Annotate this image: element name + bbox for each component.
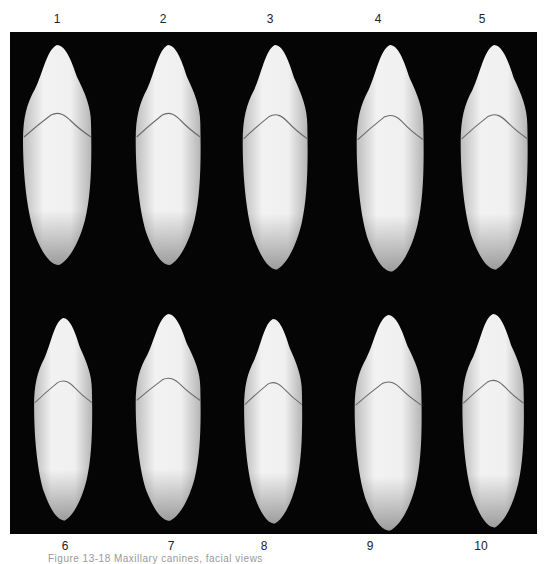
tooth-label-8: 8 bbox=[249, 539, 279, 553]
tooth-label-5: 5 bbox=[467, 12, 497, 26]
tooth-label-2: 2 bbox=[148, 12, 178, 26]
tooth-label-1: 1 bbox=[42, 12, 72, 26]
tooth-label-10: 10 bbox=[466, 539, 496, 553]
tooth-4 bbox=[357, 45, 424, 272]
tooth-label-6: 6 bbox=[50, 539, 80, 553]
tooth-1 bbox=[23, 45, 91, 265]
tooth-7 bbox=[136, 314, 201, 521]
tooth-label-4: 4 bbox=[363, 12, 393, 26]
tooth-9 bbox=[355, 315, 422, 531]
tooth-10 bbox=[462, 314, 524, 527]
tooth-3 bbox=[243, 45, 308, 269]
tooth-5 bbox=[461, 45, 528, 269]
tooth-label-3: 3 bbox=[255, 12, 285, 26]
photo-panel bbox=[10, 32, 537, 534]
tooth-label-9: 9 bbox=[355, 539, 385, 553]
teeth-photo bbox=[10, 32, 537, 534]
figure-caption: Figure 13-18 Maxillary canines, facial v… bbox=[48, 553, 263, 564]
tooth-8 bbox=[244, 319, 302, 524]
tooth-2 bbox=[136, 45, 201, 265]
tooth-label-7: 7 bbox=[156, 539, 186, 553]
tooth-6 bbox=[34, 318, 92, 520]
